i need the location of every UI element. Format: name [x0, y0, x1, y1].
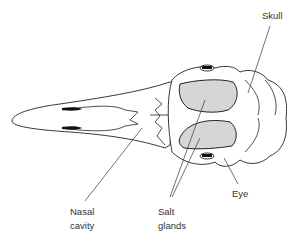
nasal-leader: [85, 128, 142, 201]
eye-upper-pupil: [202, 66, 212, 69]
label-eye: Eye: [232, 188, 248, 199]
label-salt-line1: Salt: [158, 206, 175, 217]
eye-lower-pupil: [202, 154, 212, 157]
label-nasal-line2: cavity: [70, 220, 95, 231]
label-skull: Skull: [262, 10, 283, 21]
label-salt-line2: glands: [158, 220, 186, 231]
label-nasal-line1: Nasal: [70, 206, 94, 217]
salt-gland-upper: [179, 80, 237, 112]
bird-skull-diagram: Skull Eye Nasal cavity Salt glands: [0, 0, 299, 238]
